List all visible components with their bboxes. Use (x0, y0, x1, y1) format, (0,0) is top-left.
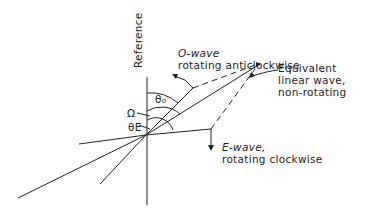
linear-wave-line3: non-rotating (278, 86, 347, 98)
theta-e-label: θE (128, 121, 142, 133)
o-arrowhead-icon (172, 74, 178, 79)
linear-wave-line1: Equivalent (278, 62, 337, 74)
e-wave-desc: rotating clockwise (222, 153, 323, 165)
e-wave-title: E-wave, (222, 141, 266, 153)
e-arrowhead-icon (208, 145, 214, 151)
omega-label: Ω (127, 107, 135, 119)
o-wave-label: O-wave (178, 47, 220, 59)
omega-arc (147, 107, 180, 114)
linear-wave-line2: linear wave, (278, 74, 346, 86)
theta-e-arc (147, 118, 173, 130)
theta-o-label: θ₀ (155, 93, 166, 105)
omega-leader (137, 113, 150, 116)
e-dashed-line (211, 69, 255, 129)
linear-wave-extension (18, 135, 146, 198)
e-wave-vector (146, 129, 211, 135)
o-wave-vector (146, 88, 193, 135)
o-wave-rotation-arrow (174, 76, 193, 88)
o-wave-extension (100, 135, 146, 184)
wave-vector-diagram (0, 0, 365, 218)
o-wave-title: O-wave (178, 47, 220, 59)
reference-label: Reference (132, 12, 144, 68)
